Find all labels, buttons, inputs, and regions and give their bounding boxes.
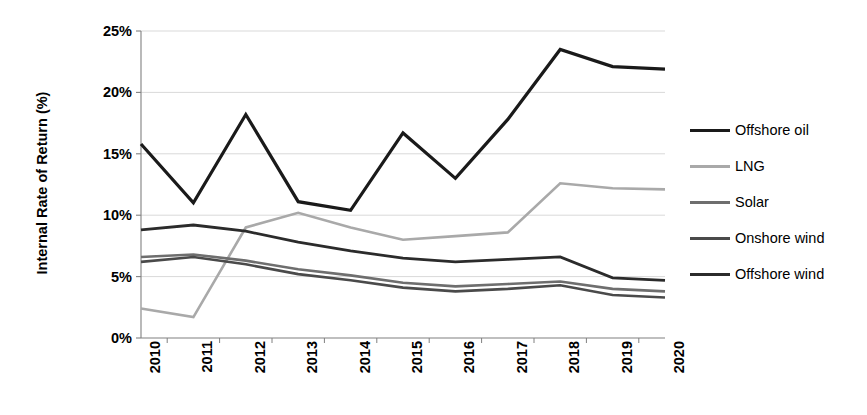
legend-item-label: Onshore wind <box>735 231 824 246</box>
legend-line-icon <box>690 201 730 204</box>
x-tick-label: 2018 <box>566 341 582 405</box>
x-tick-label: 2013 <box>304 341 320 405</box>
legend-item-label: LNG <box>735 159 765 174</box>
legend-item[interactable]: Offshore wind <box>690 256 865 292</box>
legend-line-icon <box>690 129 730 132</box>
legend-line-icon <box>690 237 730 240</box>
x-tick-label: 2012 <box>252 341 268 405</box>
x-tick-label: 2020 <box>671 341 687 405</box>
x-tick-label: 2016 <box>461 341 477 405</box>
legend-item-label: Offshore oil <box>735 123 809 138</box>
legend-item[interactable]: Onshore wind <box>690 220 865 256</box>
legend-item[interactable]: Offshore oil <box>690 112 865 148</box>
legend-line-icon <box>690 165 730 168</box>
legend-item-label: Offshore wind <box>735 267 824 282</box>
x-tick-label: 2015 <box>409 341 425 405</box>
series-line <box>141 183 665 317</box>
y-tick-label: 25% <box>76 23 132 39</box>
legend-item[interactable]: LNG <box>690 148 865 184</box>
x-axis-tick-labels: 2010201120122013201420152016201720182019… <box>141 343 665 409</box>
chart-legend: Offshore oilLNGSolarOnshore windOffshore… <box>690 112 865 292</box>
series-line <box>141 257 665 298</box>
legend-line-icon <box>690 273 730 276</box>
x-tick-label: 2014 <box>357 341 373 405</box>
x-tick-label: 2017 <box>514 341 530 405</box>
x-tick-label: 2011 <box>199 341 215 405</box>
y-tick-label: 0% <box>76 330 132 346</box>
legend-item-label: Solar <box>735 195 769 210</box>
series-lines <box>141 31 665 338</box>
x-tick-label: 2019 <box>619 341 635 405</box>
legend-item[interactable]: Solar <box>690 184 865 220</box>
y-tick-label: 10% <box>76 207 132 223</box>
y-tick-label: 20% <box>76 84 132 100</box>
y-tick-label: 15% <box>76 146 132 162</box>
plot-area <box>141 31 665 338</box>
y-axis-tick-labels: 0%5%10%15%20%25% <box>76 31 132 338</box>
chart-container: Internal Rate of Return (%) 0%5%10%15%20… <box>0 0 867 415</box>
y-axis-title: Internal Rate of Return (%) <box>34 23 50 343</box>
x-tick-label: 2010 <box>147 341 163 405</box>
y-tick-label: 5% <box>76 269 132 285</box>
